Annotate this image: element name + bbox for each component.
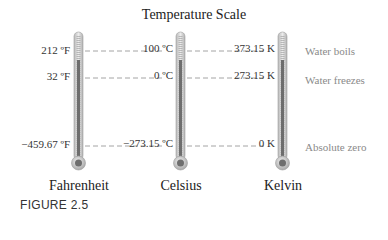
fahrenheit-freezes-value: 32 ºF [47, 70, 70, 82]
figure-caption: FIGURE 2.5 [20, 198, 88, 212]
water-freezes-label: Water freezes [305, 74, 365, 86]
celsius-boils-value: 100 ºC [143, 42, 173, 54]
thermometer-fahrenheit-icon [72, 32, 86, 170]
thermometer-kelvin-icon [276, 32, 290, 170]
thermometer-celsius-icon [174, 32, 188, 170]
scale-name-kelvin: Kelvin [264, 178, 302, 194]
scale-name-fahrenheit: Fahrenheit [49, 178, 109, 194]
dashed-lines [85, 51, 265, 146]
kelvin-freezes-value: 273.15 K [234, 69, 275, 81]
fahrenheit-boils-value: 212 ºF [41, 44, 70, 56]
kelvin-zero-value: 0 K [259, 137, 275, 149]
scale-name-celsius: Celsius [160, 178, 201, 194]
celsius-zero-value: −273.15 ºC [123, 137, 173, 149]
fahrenheit-zero-value: −459.67 ºF [21, 138, 70, 150]
celsius-freezes-value: 0 ºC [154, 69, 173, 81]
absolute-zero-label: Absolute zero [305, 141, 366, 153]
kelvin-boils-value: 373.15 K [234, 42, 275, 54]
water-boils-label: Water boils [305, 45, 355, 57]
